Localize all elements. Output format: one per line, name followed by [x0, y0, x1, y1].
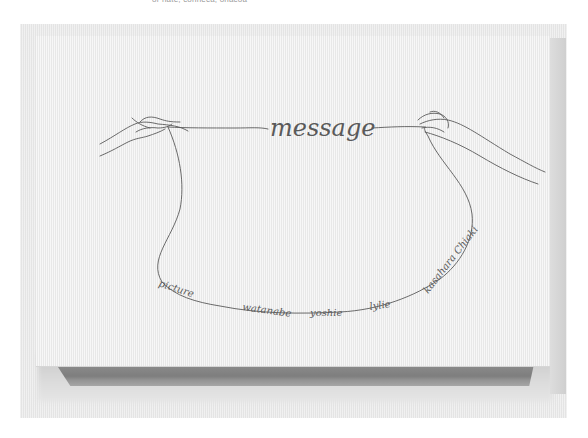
- thread-top-right: [372, 127, 425, 128]
- name-lylie: lylie: [369, 298, 392, 312]
- name-kasahara-chiaki: kasahara Chiaki: [421, 224, 480, 295]
- cropped-caption-text: or nate, conneca, onacoa: [152, 0, 292, 5]
- left-hand-icon: [100, 117, 188, 156]
- book-photo: message picture watanabe yoshie lylie ka…: [20, 24, 567, 418]
- right-hand-icon: [418, 111, 545, 184]
- name-picture: picture: [157, 277, 195, 299]
- title-message: message: [270, 114, 375, 142]
- name-watanabe: watanabe: [242, 301, 292, 319]
- cover-illustration: message picture watanabe yoshie lylie ka…: [20, 24, 567, 418]
- name-yoshie: yoshie: [309, 307, 342, 318]
